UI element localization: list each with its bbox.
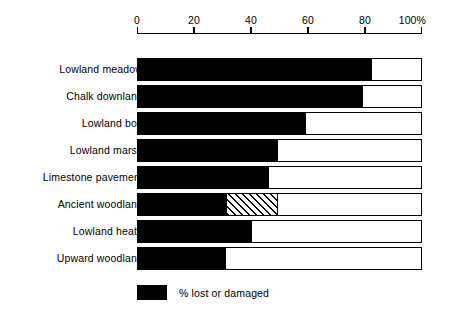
category-label: Lowland heath bbox=[73, 218, 143, 245]
bar-fill-lost-or-damaged bbox=[138, 194, 226, 215]
bar-hatch-segment bbox=[226, 194, 277, 215]
legend-swatch-lost-or-damaged bbox=[137, 285, 167, 300]
x-axis: 020406080100% bbox=[137, 14, 422, 44]
bar-row: Lowland marsh bbox=[0, 137, 452, 164]
bar-fill-lost-or-damaged bbox=[138, 221, 252, 242]
category-label: Lowland meadow bbox=[59, 56, 143, 83]
bar-track bbox=[137, 112, 422, 135]
category-label: Limestone pavement bbox=[43, 164, 143, 191]
axis-line bbox=[137, 33, 422, 34]
bar-track bbox=[137, 166, 422, 189]
axis-tick-label-80: 80 bbox=[359, 14, 371, 26]
bar-fill-lost-or-damaged bbox=[138, 113, 306, 134]
bar-track bbox=[137, 139, 422, 162]
category-label: Lowland marsh bbox=[70, 137, 143, 164]
bar-track bbox=[137, 220, 422, 243]
horizontal-bar-chart: 020406080100% Lowland meadowChalk downla… bbox=[0, 0, 452, 327]
bar-fill-lost-or-damaged bbox=[138, 248, 226, 269]
bar-fill-lost-or-damaged bbox=[138, 86, 363, 107]
axis-tick-label-100: 100% bbox=[399, 14, 426, 26]
bar-row: Upward woodland bbox=[0, 245, 452, 272]
bar-track bbox=[137, 193, 422, 216]
axis-tick-label-20: 20 bbox=[188, 14, 200, 26]
axis-tick-20 bbox=[193, 27, 194, 34]
axis-tick-80 bbox=[364, 27, 365, 34]
category-label: Chalk downland bbox=[66, 83, 143, 110]
axis-tick-label-60: 60 bbox=[302, 14, 314, 26]
bar-row: Chalk downland bbox=[0, 83, 452, 110]
axis-tick-100 bbox=[421, 27, 422, 34]
axis-tick-label-0: 0 bbox=[134, 14, 140, 26]
bar-fill-lost-or-damaged bbox=[138, 59, 372, 80]
category-label: Upward woodland bbox=[57, 245, 143, 272]
bar-row: Lowland heath bbox=[0, 218, 452, 245]
axis-tick-label-40: 40 bbox=[245, 14, 257, 26]
legend-label-lost-or-damaged: % lost or damaged bbox=[179, 287, 269, 299]
bar-fill-lost-or-damaged bbox=[138, 167, 269, 188]
bar-row: Limestone pavement bbox=[0, 164, 452, 191]
bar-row: Lowland bog bbox=[0, 110, 452, 137]
bar-rows: Lowland meadowChalk downlandLowland bogL… bbox=[0, 56, 452, 272]
axis-tick-60 bbox=[307, 27, 308, 34]
bar-track bbox=[137, 247, 422, 270]
axis-tick-0 bbox=[137, 27, 138, 34]
bar-row: Ancient woodland bbox=[0, 191, 452, 218]
bar-track bbox=[137, 85, 422, 108]
chart-legend: % lost or damaged bbox=[137, 285, 269, 300]
bar-track bbox=[137, 58, 422, 81]
bar-row: Lowland meadow bbox=[0, 56, 452, 83]
category-label: Lowland bog bbox=[82, 110, 143, 137]
category-label: Ancient woodland bbox=[58, 191, 143, 218]
bar-fill-lost-or-damaged bbox=[138, 140, 278, 161]
axis-tick-40 bbox=[250, 27, 251, 34]
